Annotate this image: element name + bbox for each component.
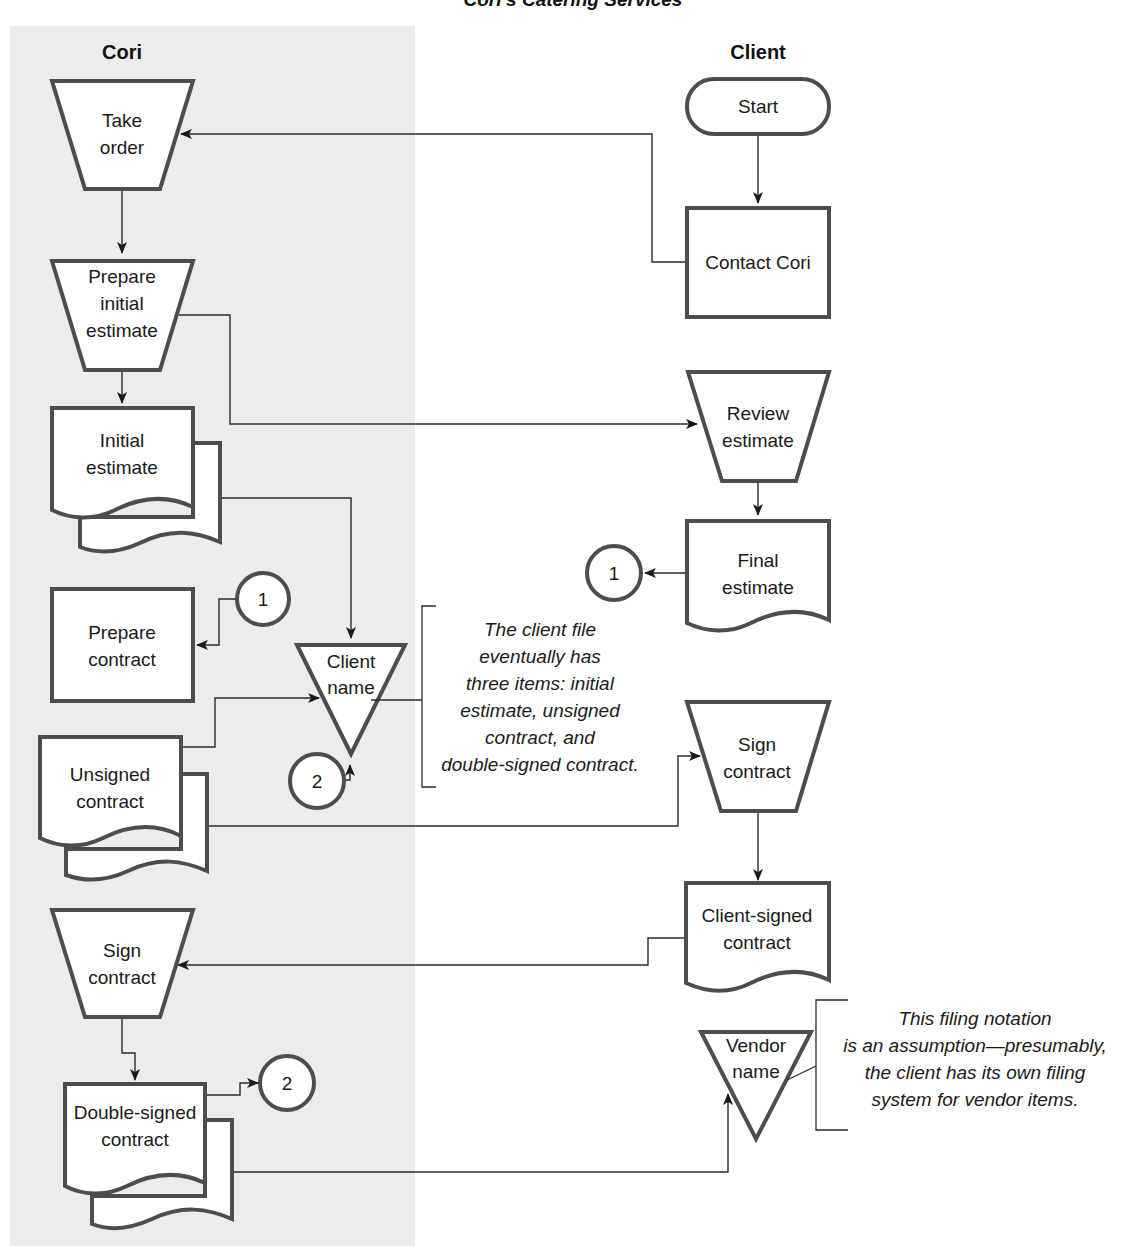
node-final-estimate[interactable]: Final estimate bbox=[687, 521, 829, 631]
svg-text:contract: contract bbox=[723, 761, 791, 782]
svg-text:the client has its own filing: the client has its own filing bbox=[865, 1062, 1086, 1083]
svg-text:estimate: estimate bbox=[722, 577, 794, 598]
svg-text:Start: Start bbox=[738, 96, 779, 117]
svg-text:three items: initial: three items: initial bbox=[466, 673, 615, 694]
lane-header-client: Client bbox=[730, 41, 786, 63]
svg-text:Sign: Sign bbox=[738, 734, 776, 755]
svg-text:Final: Final bbox=[737, 550, 778, 571]
node-double-signed-contract-label: Double-signed bbox=[74, 1102, 197, 1123]
svg-text:Review: Review bbox=[727, 403, 790, 424]
svg-text:name: name bbox=[327, 677, 375, 698]
node-start[interactable]: Start bbox=[687, 79, 829, 134]
annotation-vendor-file: This filing notation is an assumption—pr… bbox=[787, 1000, 1107, 1130]
svg-text:estimate: estimate bbox=[86, 320, 158, 341]
svg-text:Client: Client bbox=[327, 651, 376, 672]
svg-text:1: 1 bbox=[609, 563, 620, 584]
svg-text:contract: contract bbox=[88, 967, 156, 988]
connector-2-in[interactable]: 2 bbox=[290, 754, 344, 808]
svg-text:The client file: The client file bbox=[484, 619, 596, 640]
svg-text:2: 2 bbox=[282, 1073, 293, 1094]
node-vendor-name-file[interactable]: Vendor name bbox=[701, 1032, 811, 1139]
node-prepare-contract[interactable]: Prepare contract bbox=[52, 589, 193, 701]
connector-2-out[interactable]: 2 bbox=[260, 1056, 314, 1110]
diagram-title: Cori's Catering Services bbox=[464, 0, 683, 10]
svg-text:Prepare: Prepare bbox=[88, 266, 156, 287]
svg-text:Take: Take bbox=[102, 110, 142, 131]
node-unsigned-contract-label: Unsigned bbox=[70, 764, 150, 785]
node-double-signed-contract-label: contract bbox=[101, 1129, 169, 1150]
svg-text:Sign: Sign bbox=[103, 940, 141, 961]
node-review-estimate[interactable]: Review estimate bbox=[688, 372, 829, 481]
connector-1-out[interactable]: 1 bbox=[587, 546, 641, 600]
svg-text:Vendor: Vendor bbox=[726, 1035, 787, 1056]
svg-text:Contact Cori: Contact Cori bbox=[705, 252, 811, 273]
svg-text:Client-signed: Client-signed bbox=[702, 905, 813, 926]
node-sign-contract-client[interactable]: Sign contract bbox=[687, 702, 829, 811]
node-contact-cori[interactable]: Contact Cori bbox=[687, 208, 829, 317]
svg-text:order: order bbox=[100, 137, 145, 158]
connector-1-in[interactable]: 1 bbox=[237, 573, 289, 625]
svg-text:name: name bbox=[732, 1061, 780, 1082]
svg-text:is an assumption—presumably,: is an assumption—presumably, bbox=[843, 1035, 1107, 1056]
node-client-signed-contract[interactable]: Client-signed contract bbox=[686, 883, 829, 991]
svg-text:Prepare: Prepare bbox=[88, 622, 156, 643]
svg-text:This filing notation: This filing notation bbox=[898, 1008, 1051, 1029]
svg-text:estimate: estimate bbox=[722, 430, 794, 451]
svg-text:contract, and: contract, and bbox=[485, 727, 596, 748]
svg-text:system for vendor items.: system for vendor items. bbox=[872, 1089, 1079, 1110]
svg-text:initial: initial bbox=[100, 293, 143, 314]
svg-text:1: 1 bbox=[258, 589, 269, 610]
lane-header-cori: Cori bbox=[102, 41, 142, 63]
node-initial-estimate-label: Initial bbox=[100, 430, 144, 451]
svg-text:estimate, unsigned: estimate, unsigned bbox=[460, 700, 621, 721]
svg-text:eventually has: eventually has bbox=[479, 646, 601, 667]
svg-text:2: 2 bbox=[312, 771, 323, 792]
node-initial-estimate-label: estimate bbox=[86, 457, 158, 478]
svg-text:contract: contract bbox=[88, 649, 156, 670]
flowchart-canvas: Cori's Catering Services Cori Client bbox=[0, 0, 1146, 1259]
svg-text:contract: contract bbox=[723, 932, 791, 953]
node-unsigned-contract-label: contract bbox=[76, 791, 144, 812]
svg-text:double-signed contract.: double-signed contract. bbox=[441, 754, 639, 775]
